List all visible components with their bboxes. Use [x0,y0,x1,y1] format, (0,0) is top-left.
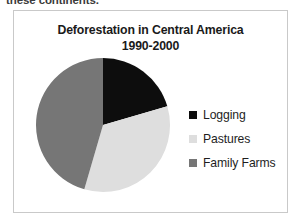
figure-frame: Deforestation in Central America 1990-20… [13,10,288,213]
legend-item-logging: Logging [189,103,287,127]
legend-label-family-farms: Family Farms [203,156,276,170]
legend-label-logging: Logging [203,108,246,122]
chart-title-line-2: 1990-2000 [14,39,287,55]
chart-legend: Logging Pastures Family Farms [189,103,287,175]
pie-chart [35,57,171,193]
legend-label-pastures: Pastures [203,132,250,146]
legend-swatch-pastures [189,135,197,143]
page-body-text-fragment: these continents. [6,0,206,8]
legend-item-pastures: Pastures [189,127,287,151]
legend-swatch-family-farms [189,159,197,167]
legend-item-family-farms: Family Farms [189,151,287,175]
chart-title: Deforestation in Central America 1990-20… [14,23,287,54]
legend-swatch-logging [189,111,197,119]
chart-title-line-1: Deforestation in Central America [57,23,243,37]
